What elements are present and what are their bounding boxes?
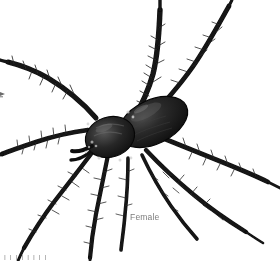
caption-female: Female — [130, 212, 160, 222]
clipped-footer-text: l l l l l l l l — [0, 255, 280, 261]
spider-figure: Female l l l l l l l l — [0, 0, 280, 261]
clipped-footer-line: l l l l l l l l — [4, 255, 47, 261]
